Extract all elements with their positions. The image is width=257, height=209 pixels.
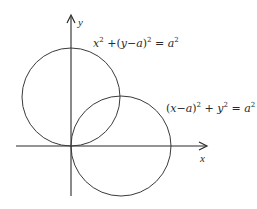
- circle-diagram: y x x2 +(y−a)2 = a2 (x−a)2 + y2 = a2: [0, 0, 257, 209]
- upper-circle-equation: x2 +(y−a)2 = a2: [93, 38, 179, 49]
- y-axis-label: y: [78, 17, 83, 28]
- x-axis-label: x: [200, 153, 205, 164]
- lower-right-circle-equation: (x−a)2 + y2 = a2: [166, 103, 255, 114]
